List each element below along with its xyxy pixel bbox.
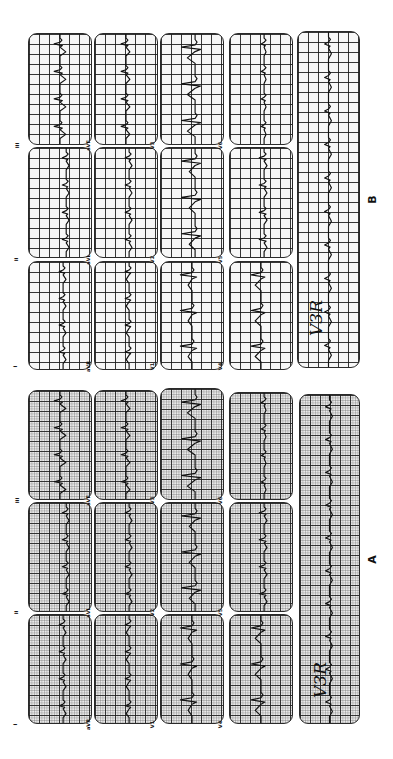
lead-label: V3 bbox=[150, 142, 155, 149]
ecg-trace bbox=[95, 262, 157, 369]
ecg-trace bbox=[230, 148, 292, 257]
ecg-trace bbox=[29, 391, 91, 499]
panel-a-lead-v2 bbox=[160, 502, 224, 612]
ecg-trace bbox=[230, 615, 292, 723]
ecg-trace bbox=[95, 34, 157, 144]
panel-b-lead-v5 bbox=[229, 147, 293, 258]
panel-b-lead-v1 bbox=[160, 261, 224, 370]
lead-label: aVR bbox=[86, 719, 91, 730]
ecg-trace bbox=[29, 34, 91, 144]
panel-b-lead-v6 bbox=[229, 33, 293, 145]
handwritten-annotation: V3R bbox=[310, 662, 330, 698]
panel-b-lead-avl bbox=[94, 147, 158, 258]
ecg-trace bbox=[95, 391, 157, 499]
panel-a-lead-v6 bbox=[229, 392, 293, 500]
lead-label: V3 bbox=[150, 497, 155, 504]
ecg-trace bbox=[230, 393, 292, 499]
ecg-trace bbox=[95, 503, 157, 611]
panel-b-lead-avr bbox=[94, 261, 158, 370]
ecg-trace bbox=[161, 389, 223, 499]
panel-label: B bbox=[366, 195, 379, 203]
panel-a-lead-v3 bbox=[160, 388, 224, 500]
lead-label: aVR bbox=[86, 361, 91, 372]
panel-a-lead-iii bbox=[28, 390, 92, 500]
lead-label: aVF bbox=[86, 495, 91, 506]
panel-b-lead-iii bbox=[28, 33, 92, 145]
panel-b-lead-ii bbox=[28, 147, 92, 258]
lead-label: V1 bbox=[150, 721, 155, 728]
panel-a-lead-avf bbox=[94, 390, 158, 500]
lead-label: III bbox=[15, 143, 20, 149]
panel-a-lead-v1 bbox=[160, 614, 224, 724]
ecg-trace bbox=[29, 503, 91, 611]
ecg-trace bbox=[29, 262, 91, 369]
lead-label: V2 bbox=[150, 256, 155, 263]
lead-label: aVL bbox=[86, 254, 91, 264]
lead-label: III bbox=[15, 498, 20, 504]
panel-b-lead-i bbox=[28, 261, 92, 370]
lead-label: V5 bbox=[218, 256, 223, 263]
ecg-trace bbox=[95, 615, 157, 723]
handwritten-annotation: V3R bbox=[306, 300, 326, 336]
ecg-trace bbox=[161, 615, 223, 723]
lead-label: V1 bbox=[150, 363, 155, 370]
lead-label: II bbox=[14, 258, 19, 262]
lead-label: V5 bbox=[218, 609, 223, 616]
lead-label: I bbox=[13, 724, 18, 726]
panel-b-lead-avf bbox=[94, 33, 158, 145]
panel-b-lead-v3 bbox=[160, 33, 224, 145]
lead-label: aVF bbox=[86, 140, 91, 151]
panel-a-lead-v4 bbox=[229, 614, 293, 724]
lead-label: V6 bbox=[218, 497, 223, 504]
panel-b-lead-v2 bbox=[160, 147, 224, 258]
ecg-trace bbox=[161, 262, 223, 369]
lead-label: V2 bbox=[150, 609, 155, 616]
panel-a-lead-v5 bbox=[229, 502, 293, 612]
ecg-figure: IIIIIIaVRaVLaVFV1V2V3V4V5V6V3RBIIIIIIaVR… bbox=[0, 0, 393, 759]
ecg-trace bbox=[95, 148, 157, 257]
lead-label: aVL bbox=[86, 607, 91, 617]
lead-label: V6 bbox=[218, 142, 223, 149]
lead-label: V4 bbox=[218, 721, 223, 728]
panel-b-lead-v4 bbox=[229, 261, 293, 370]
ecg-trace bbox=[29, 615, 91, 723]
lead-label: I bbox=[13, 366, 18, 368]
ecg-trace bbox=[230, 503, 292, 611]
panel-a-lead-avl bbox=[94, 502, 158, 612]
ecg-trace bbox=[161, 148, 223, 257]
ecg-trace bbox=[230, 262, 292, 369]
ecg-trace bbox=[29, 148, 91, 257]
panel-a-lead-avr bbox=[94, 614, 158, 724]
panel-label: A bbox=[366, 555, 379, 564]
lead-label: V4 bbox=[218, 363, 223, 370]
panel-a-lead-ii bbox=[28, 502, 92, 612]
ecg-trace bbox=[161, 503, 223, 611]
ecg-trace bbox=[161, 34, 223, 144]
ecg-trace bbox=[230, 34, 292, 144]
lead-label: II bbox=[14, 611, 19, 615]
panel-a-lead-i bbox=[28, 614, 92, 724]
